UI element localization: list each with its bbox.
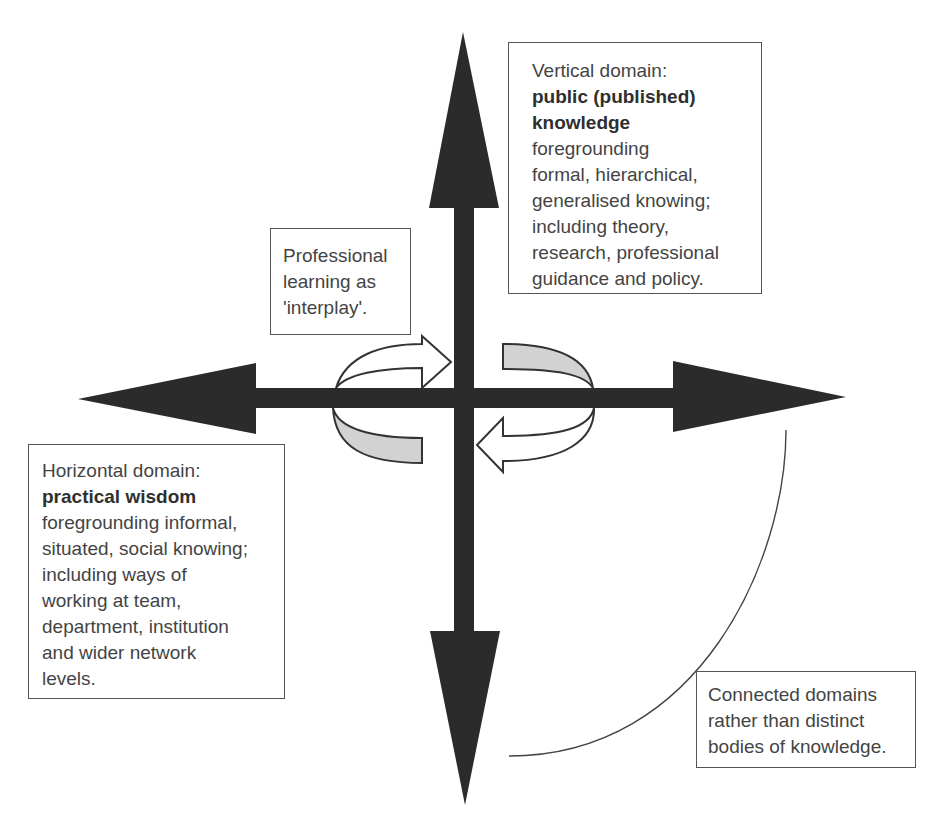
interplay-arrow-right-icon: [336, 336, 451, 388]
vertical-domain-bold-1: public (published): [532, 84, 761, 110]
horizontal-domain-line: and wider network: [42, 640, 284, 666]
horizontal-domain-line: foregrounding informal,: [42, 510, 284, 536]
vertical-domain-line: generalised knowing;: [532, 188, 761, 214]
vertical-domain-line: guidance and policy.: [532, 266, 761, 292]
vertical-domain-title: Vertical domain:: [532, 58, 761, 84]
vertical-domain-line: research, professional: [532, 240, 761, 266]
vertical-domain-bold-2: knowledge: [532, 110, 761, 136]
interplay-line: learning as: [283, 269, 410, 295]
interplay-line: 'interplay'.: [283, 295, 410, 321]
vertical-domain-line: formal, hierarchical,: [532, 162, 761, 188]
interplay-arrow-left-icon: [477, 408, 594, 472]
horizontal-domain-box: Horizontal domain: practical wisdom fore…: [28, 444, 285, 699]
horizontal-domain-line: working at team,: [42, 588, 284, 614]
interplay-line: Professional: [283, 243, 410, 269]
down-arrowhead-icon: [430, 631, 500, 805]
horizontal-domain-line: including ways of: [42, 562, 284, 588]
horizontal-domain-line: department, institution: [42, 614, 284, 640]
left-arrowhead-icon: [78, 363, 256, 434]
horizontal-domain-bold: practical wisdom: [42, 484, 284, 510]
connected-line: Connected domains: [708, 682, 915, 708]
horizontal-domain-line: levels.: [42, 666, 284, 692]
interplay-tail-left-icon: [333, 408, 422, 463]
connected-line: rather than distinct: [708, 708, 915, 734]
connected-domains-box: Connected domains rather than distinct b…: [696, 671, 916, 768]
interplay-tail-right-icon: [503, 344, 593, 388]
vertical-domain-line: including theory,: [532, 214, 761, 240]
up-arrowhead-icon: [429, 32, 499, 208]
right-arrowhead-icon: [673, 361, 846, 432]
vertical-domain-box: Vertical domain: public (published) know…: [508, 42, 762, 294]
interplay-box: Professional learning as 'interplay'.: [270, 228, 411, 335]
horizontal-domain-line: situated, social knowing;: [42, 536, 284, 562]
horizontal-domain-title: Horizontal domain:: [42, 458, 284, 484]
vertical-axis-overlay: [454, 330, 474, 480]
vertical-domain-line: foregrounding: [532, 136, 761, 162]
connected-line: bodies of knowledge.: [708, 734, 915, 760]
